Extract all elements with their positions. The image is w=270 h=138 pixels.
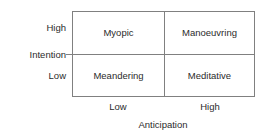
quadrant-bottom-left: Meandering bbox=[73, 55, 165, 96]
x-axis-title: Anticipation bbox=[113, 119, 213, 130]
quadrant-top-left: Myopic bbox=[73, 12, 165, 55]
quadrant-top-right: Manoeuvring bbox=[165, 12, 254, 55]
y-axis-tick-low: Low bbox=[0, 70, 66, 81]
x-axis-tick-high: High bbox=[180, 101, 240, 112]
intention-anticipation-matrix: High Intention Low Myopic Manoeuvring Me… bbox=[0, 0, 270, 138]
y-axis-tick-high: High bbox=[0, 22, 66, 33]
quadrant-bottom-right: Meditative bbox=[165, 55, 254, 96]
y-axis-title: Intention bbox=[0, 49, 66, 60]
matrix-grid: Myopic Manoeuvring Meandering Meditative bbox=[72, 11, 255, 97]
x-axis-tick-low: Low bbox=[88, 101, 148, 112]
